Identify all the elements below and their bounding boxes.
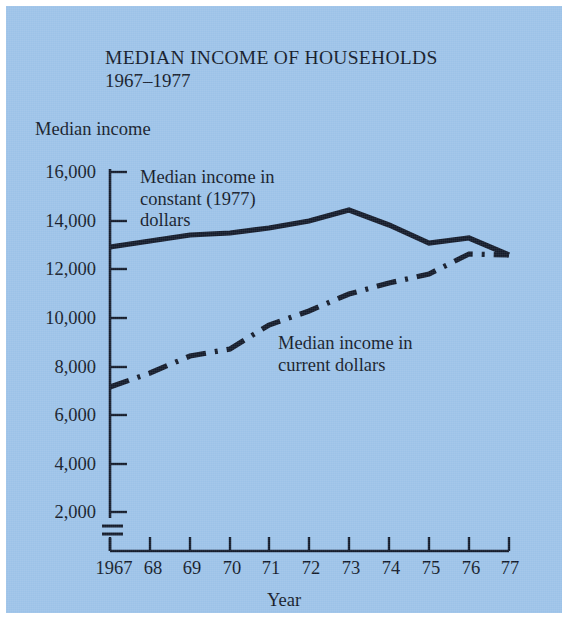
y-tick-label: 16,000: [18, 162, 96, 183]
x-tick-label: 77: [501, 558, 520, 579]
x-tick-label: 74: [382, 558, 401, 579]
y-tick-label: 4,000: [18, 454, 96, 475]
y-tick-label: 6,000: [18, 405, 96, 426]
x-tick-label: 69: [183, 558, 202, 579]
x-axis-title: Year: [6, 590, 562, 611]
series-label-constant-dollars: Median income in constant (1977) dollars: [140, 167, 275, 232]
x-tick-label: 73: [342, 558, 361, 579]
x-tick-label: 72: [302, 558, 321, 579]
series-label-constant-line-1: Median income in: [140, 167, 275, 189]
series-label-constant-line-3: dollars: [140, 210, 275, 232]
y-tick-label: 12,000: [18, 259, 96, 280]
series-label-current-dollars: Median income in current dollars: [278, 333, 413, 376]
x-tick-label: 68: [144, 558, 163, 579]
series-label-current-line-1: Median income in: [278, 333, 413, 355]
x-tick-label: 1967: [96, 558, 133, 579]
series-label-constant-line-2: constant (1977): [140, 189, 275, 211]
x-tick-label: 76: [462, 558, 481, 579]
figure-panel: MEDIAN INCOME OF HOUSEHOLDS 1967–1977 Me…: [6, 6, 562, 613]
y-tick-label: 10,000: [18, 308, 96, 329]
x-tick-marks: [110, 537, 509, 551]
x-tick-label: 71: [262, 558, 281, 579]
x-tick-label: 75: [422, 558, 441, 579]
y-tick-label: 14,000: [18, 211, 96, 232]
x-tick-label: 70: [223, 558, 242, 579]
y-tick-label: 2,000: [18, 502, 96, 523]
y-tick-label: 8,000: [18, 357, 96, 378]
series-label-current-line-2: current dollars: [278, 355, 413, 377]
y-tick-marks: [110, 172, 127, 512]
